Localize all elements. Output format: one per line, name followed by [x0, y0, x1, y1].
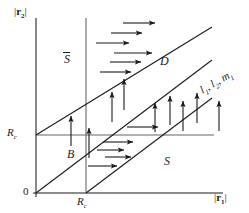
- diagonal-line-lower: [86, 98, 212, 193]
- region-label-d: D: [160, 55, 169, 67]
- rc-guide-group: [36, 18, 214, 193]
- y-tick-rc-label: Rc: [7, 127, 17, 141]
- region-label-b: B: [67, 148, 74, 160]
- axis-group: [33, 18, 223, 197]
- origin-label: 0: [23, 186, 29, 197]
- y-axis-label: |r2|: [14, 6, 27, 20]
- figure-canvas: |r2| |r1| 0 Rc Rc S D B S l1, l2, m1: [0, 0, 249, 213]
- vertical-arrows-group: [71, 79, 219, 158]
- region-label-s: S: [164, 155, 170, 167]
- horizontal-arrows-group: [88, 23, 158, 166]
- x-axis-label: |r1|: [214, 192, 227, 206]
- region-label-s-bar: S: [64, 52, 70, 65]
- x-tick-rc-label: Rc: [77, 196, 87, 210]
- diagram-svg: [0, 0, 249, 213]
